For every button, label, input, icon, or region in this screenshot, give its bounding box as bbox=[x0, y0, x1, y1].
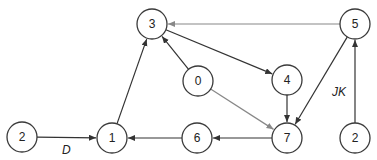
node-label: 6 bbox=[194, 131, 201, 145]
node-0: 0 bbox=[183, 66, 213, 96]
edge-0-to-3 bbox=[162, 36, 189, 69]
node-label: 2 bbox=[352, 131, 359, 145]
node-1: 1 bbox=[97, 123, 127, 153]
node-4: 4 bbox=[272, 65, 302, 95]
directed-graph: DJK 213047652 bbox=[0, 0, 377, 160]
node-6: 6 bbox=[182, 123, 212, 153]
nodes: 213047652 bbox=[7, 9, 370, 153]
edge-label: JK bbox=[331, 85, 347, 99]
node-label: 4 bbox=[284, 73, 291, 87]
edge-0-to-7 bbox=[211, 89, 274, 129]
node-label: 5 bbox=[352, 17, 359, 31]
edge-2-to-1 bbox=[37, 137, 96, 138]
node-2: 2 bbox=[7, 122, 37, 152]
edge-5-to-7 bbox=[295, 37, 347, 124]
edge-1-to-3 bbox=[117, 39, 147, 124]
node-3: 3 bbox=[137, 9, 167, 39]
node-7: 7 bbox=[272, 123, 302, 153]
node-label: 2 bbox=[19, 130, 26, 144]
node-2: 2 bbox=[340, 123, 370, 153]
node-label: 1 bbox=[109, 131, 116, 145]
node-5: 5 bbox=[340, 9, 370, 39]
edge-label: D bbox=[62, 143, 71, 157]
node-label: 7 bbox=[284, 131, 291, 145]
node-label: 3 bbox=[149, 17, 156, 31]
edge-3-to-4 bbox=[166, 30, 272, 74]
node-label: 0 bbox=[195, 74, 202, 88]
